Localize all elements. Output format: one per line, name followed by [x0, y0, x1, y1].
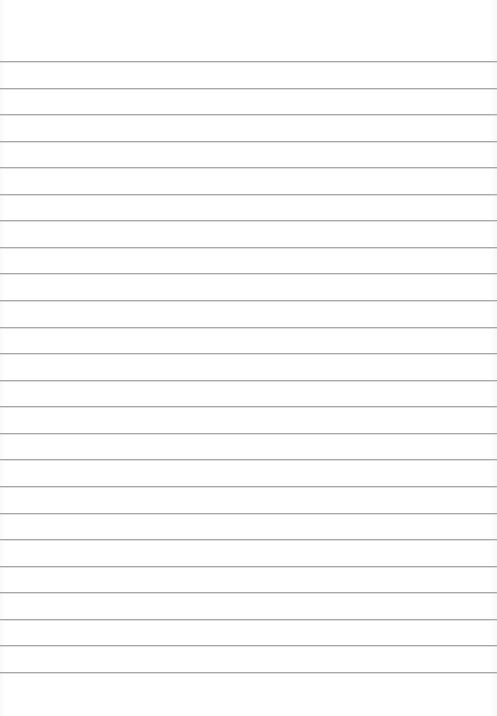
ruled-line — [0, 619, 497, 621]
ruled-line — [0, 167, 497, 169]
ruled-line — [0, 220, 497, 222]
ruled-line — [0, 61, 497, 63]
ruled-line — [0, 247, 497, 249]
ruled-line — [0, 194, 497, 196]
ruled-line — [0, 672, 497, 674]
ruled-line — [0, 380, 497, 382]
ruled-line — [0, 273, 497, 275]
ruled-line — [0, 327, 497, 329]
ruled-line — [0, 592, 497, 594]
ruled-line — [0, 486, 497, 488]
ruled-line — [0, 433, 497, 435]
ruled-line — [0, 300, 497, 302]
ruled-line — [0, 114, 497, 116]
ruled-line — [0, 88, 497, 90]
lined-paper-sheet — [0, 0, 497, 716]
ruled-line — [0, 539, 497, 541]
ruled-line — [0, 513, 497, 515]
ruled-line — [0, 406, 497, 408]
ruled-line — [0, 459, 497, 461]
ruled-line — [0, 141, 497, 143]
ruled-line — [0, 645, 497, 647]
ruled-line — [0, 353, 497, 355]
ruled-line — [0, 566, 497, 568]
